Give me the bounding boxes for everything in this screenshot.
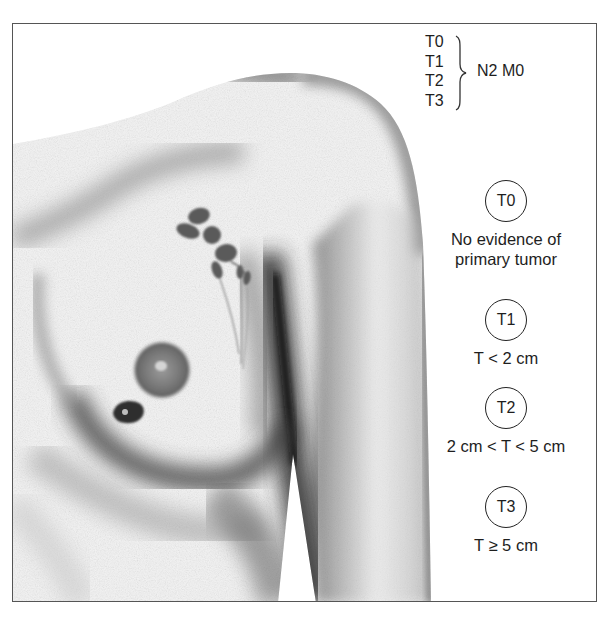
stage-t2: T2 2 cm < T < 5 cm — [418, 387, 594, 456]
stage-t3: T3 T ≥ 5 cm — [418, 486, 594, 555]
t-list: T0 T1 T2 T3 — [425, 32, 444, 110]
t-list-item: T0 — [425, 32, 444, 52]
grouping-label: N2 M0 — [477, 62, 524, 80]
t-list-item: T2 — [425, 71, 444, 91]
stage-description: T ≥ 5 cm — [418, 535, 594, 555]
stage-t1: T1 T < 2 cm — [418, 299, 594, 368]
stage-description: 2 cm < T < 5 cm — [418, 436, 594, 456]
areola — [132, 340, 192, 400]
stage-circle: T1 — [485, 299, 527, 341]
t-list-item: T3 — [425, 91, 444, 111]
stage-description: T < 2 cm — [418, 348, 594, 368]
stage-circle: T0 — [485, 180, 527, 222]
t-list-item: T1 — [425, 52, 444, 72]
stage-circle: T3 — [485, 486, 527, 528]
stage-t0: T0 No evidence of primary tumor — [418, 180, 594, 269]
stage-description: No evidence of primary tumor — [418, 229, 594, 269]
stage-circle: T2 — [485, 387, 527, 429]
figure-frame: T0 T1 T2 T3 N2 M0 T0 No evidence of prim… — [12, 23, 597, 602]
